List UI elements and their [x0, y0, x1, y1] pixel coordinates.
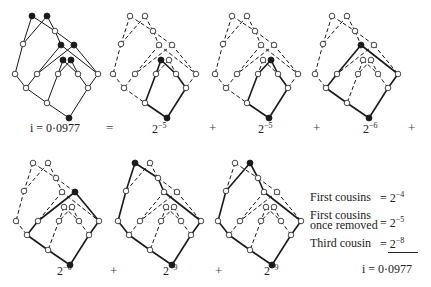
individual-node [226, 232, 232, 238]
pedigree-edge [126, 163, 135, 191]
plus-sign: + [313, 121, 320, 134]
pedigree-edge [113, 44, 121, 74]
individual-node [371, 42, 377, 48]
individual-node [334, 71, 340, 77]
ancestor-node-filled [358, 42, 364, 48]
pedigree-edge [274, 45, 298, 74]
pedigree-panel-p5 [115, 160, 204, 268]
individual-node [95, 71, 101, 77]
individual-node [352, 28, 358, 34]
individual-node [375, 71, 381, 77]
panel-label-full: i = 0·0977 [30, 122, 80, 134]
individual-node [59, 189, 65, 195]
individual-node [123, 188, 129, 194]
individual-node [274, 189, 280, 195]
plus-sign: + [215, 264, 222, 277]
pedigree-edge [124, 88, 145, 103]
panel-label-p1: 2−5 [152, 122, 167, 135]
ancestor-node-filled [72, 189, 78, 195]
pedigree-edge [223, 16, 232, 44]
individual-node [127, 13, 133, 19]
pedigree-edge [26, 88, 47, 103]
pedigree-edge [261, 45, 298, 74]
plus-sign: + [110, 264, 117, 277]
individual-node [183, 85, 189, 91]
individual-node [69, 204, 75, 210]
individual-node [178, 218, 184, 224]
individual-node [55, 71, 61, 77]
pedigree-edge [172, 45, 196, 74]
individual-node [298, 218, 304, 224]
pedigree-edge [145, 103, 167, 118]
individual-node [244, 100, 250, 106]
individual-node [229, 13, 235, 19]
individual-node [126, 232, 132, 238]
pedigree-panel-p1 [110, 13, 199, 121]
individual-node [121, 85, 127, 91]
panel-label-p6: 2−9 [264, 264, 279, 277]
plus-sign: + [209, 121, 216, 134]
pedigree-edge [323, 16, 347, 44]
pedigree-edge [264, 192, 301, 221]
pedigree-panel-p6 [215, 160, 304, 268]
pedigree-edge [69, 88, 88, 118]
individual-node [142, 13, 148, 19]
legend-total: i = 0·0977 [362, 262, 412, 277]
pedigree-edge [177, 192, 201, 221]
pedigree-edge [237, 45, 261, 74]
individual-node [285, 85, 291, 91]
pedigree-edge [361, 45, 398, 74]
plus-sign: + [408, 121, 415, 134]
individual-node [258, 42, 264, 48]
pedigree-edge [247, 103, 269, 118]
individual-node [171, 204, 177, 210]
individual-node [166, 57, 172, 63]
individual-node [278, 218, 284, 224]
individual-node [52, 28, 58, 34]
pedigree-edge [272, 235, 291, 265]
ancestor-node-filled [60, 57, 66, 63]
individual-node [12, 71, 18, 77]
pedigree-edge [337, 45, 361, 74]
pedigree-edge [218, 191, 226, 221]
panel-label-p5: 2−9 [163, 264, 178, 277]
ancestor-node-filled [268, 57, 274, 63]
pedigree-edge [226, 88, 247, 103]
pedigree-edge [172, 235, 191, 265]
individual-node [312, 71, 318, 77]
individual-node [255, 71, 261, 77]
individual-node [320, 41, 326, 47]
individual-node [237, 218, 243, 224]
individual-node [344, 100, 350, 106]
pedigree-edge [223, 16, 247, 44]
individual-node [61, 204, 67, 210]
pedigree-edge [250, 221, 261, 250]
pedigree-edge [226, 163, 250, 191]
individual-node [56, 218, 62, 224]
panel-label-p3: 2−6 [363, 122, 378, 135]
individual-node [360, 57, 366, 63]
individual-node [156, 42, 162, 48]
individual-node [169, 42, 175, 48]
individual-node [329, 13, 335, 19]
pedigree-edge [70, 235, 89, 265]
pedigree-edge [75, 192, 99, 221]
pedigree-edge [374, 45, 398, 74]
pedigree-panel-p3 [312, 13, 401, 121]
panel-label-p2: 2−5 [258, 122, 273, 135]
individual-node [118, 41, 124, 47]
individual-node [223, 188, 229, 194]
individual-node [44, 100, 50, 106]
individual-node [13, 218, 19, 224]
individual-node [232, 160, 238, 166]
individual-node [223, 85, 229, 91]
legend-third-cousin: Third cousin = 2−8 [310, 236, 371, 251]
pedigree-edge [250, 250, 272, 265]
individual-node [215, 218, 221, 224]
pedigree-edge [23, 16, 32, 44]
individual-node [75, 71, 81, 77]
pedigree-edge [247, 74, 258, 103]
pedigree-panel-full [12, 13, 101, 121]
ancestor-node-filled [29, 13, 35, 19]
pedigree-edge [24, 163, 48, 191]
